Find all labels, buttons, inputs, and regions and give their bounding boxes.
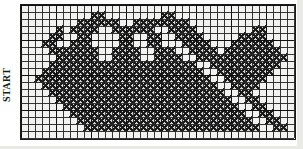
- pattern-grid[interactable]: [20, 4, 296, 140]
- scan-edge-right: [297, 0, 303, 149]
- start-label: START: [0, 50, 14, 102]
- cross-stitch-chart-figure: START: [0, 0, 303, 149]
- pattern-grid-canvas: [21, 5, 295, 139]
- scan-edge-bottom: [0, 146, 303, 149]
